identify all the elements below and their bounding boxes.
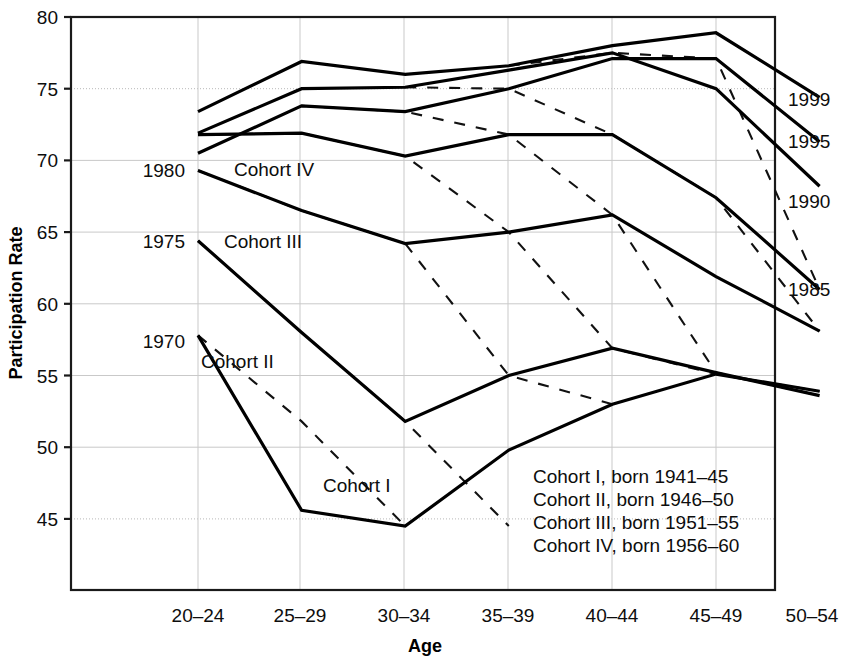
year-label-1985: 1985 xyxy=(788,279,830,300)
cohort-label-iv: Cohort IV xyxy=(234,159,315,180)
cohort-label-ii: Cohort II xyxy=(201,351,274,372)
xtick-label-1: 25–29 xyxy=(274,605,327,626)
year-label-1990: 1990 xyxy=(788,191,830,212)
year-label-1999: 1999 xyxy=(788,89,830,110)
xtick-label-4: 40–44 xyxy=(586,605,639,626)
year-label-1970: 1970 xyxy=(143,331,185,352)
legend-item-1: Cohort II, born 1946–50 xyxy=(533,489,734,510)
ytick-label-50: 50 xyxy=(37,437,58,458)
year-label-1980: 1980 xyxy=(143,160,185,181)
year-label-1975: 1975 xyxy=(143,231,185,252)
ytick-label-70: 70 xyxy=(37,150,58,171)
xtick-label-0: 20–24 xyxy=(172,605,225,626)
xtick-label-3: 35–39 xyxy=(482,605,535,626)
legend-item-2: Cohort III, born 1951–55 xyxy=(533,512,739,533)
legend-item-3: Cohort IV, born 1956–60 xyxy=(533,535,739,556)
cohort-label-iii: Cohort III xyxy=(224,231,302,252)
xtick-label-5: 45–49 xyxy=(690,605,743,626)
ytick-label-60: 60 xyxy=(37,294,58,315)
ytick-label-45: 45 xyxy=(37,509,58,530)
xtick-label-6: 50–54 xyxy=(786,605,839,626)
y-axis-title: Participation Rate xyxy=(6,226,26,379)
chart-figure: 80 75 70 65 60 55 50 45 Participation Ra… xyxy=(0,0,851,658)
cohort-participation-rate-chart: 80 75 70 65 60 55 50 45 Participation Ra… xyxy=(0,0,851,658)
chart-background xyxy=(0,0,851,658)
x-axis-title: Age xyxy=(408,636,442,656)
ytick-label-55: 55 xyxy=(37,366,58,387)
ytick-label-75: 75 xyxy=(37,79,58,100)
legend-item-0: Cohort I, born 1941–45 xyxy=(533,466,728,487)
cohort-label-i: Cohort I xyxy=(323,475,391,496)
xtick-label-2: 30–34 xyxy=(378,605,431,626)
year-label-1995: 1995 xyxy=(788,131,830,152)
ytick-label-80: 80 xyxy=(37,7,58,28)
ytick-label-65: 65 xyxy=(37,222,58,243)
